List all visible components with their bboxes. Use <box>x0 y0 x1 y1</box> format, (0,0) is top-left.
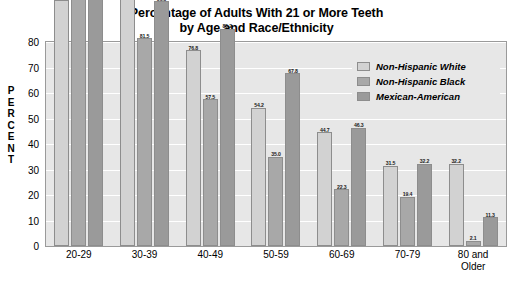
bar-value-label: 2.1 <box>470 235 477 241</box>
x-axis-tick-line: 50-59 <box>263 249 289 261</box>
bar-value-label: 96.0 <box>157 0 167 2</box>
x-axis-tick: 30-39 <box>132 249 158 261</box>
bar-value-label: 35.0 <box>271 151 281 157</box>
bar[interactable]: 67.8 <box>285 73 300 246</box>
bar-value-label: 32.2 <box>451 158 461 164</box>
bar-value-label: 85.2 <box>223 23 233 29</box>
legend-swatch <box>357 92 370 101</box>
bar[interactable]: 99.2 <box>120 0 135 246</box>
x-axis-tick-line: 70-79 <box>395 249 421 261</box>
bar[interactable]: 97.8 <box>71 0 86 246</box>
y-axis-tick-labels: 01020304050607080 <box>0 42 42 246</box>
legend-item[interactable]: Non-Hispanic White <box>357 59 496 74</box>
bar-group: 99.281.596.0 <box>112 42 178 246</box>
bar[interactable]: 96.5 <box>54 0 69 246</box>
x-axis-tick: 80 andOlder <box>458 249 489 273</box>
bar-group: 54.235.067.8 <box>243 42 309 246</box>
x-axis-tick: 20-29 <box>66 249 92 261</box>
x-axis-tick: 70-79 <box>395 249 421 261</box>
bar-value-label: 81.5 <box>140 33 150 39</box>
x-axis-tick-line: 80 and <box>458 249 489 261</box>
bar[interactable]: 19.4 <box>400 197 415 246</box>
bar-value-label: 31.5 <box>386 160 396 166</box>
bar-value-label: 46.3 <box>354 122 364 128</box>
bar-value-label: 11.3 <box>486 212 495 218</box>
x-axis-tick-line: 60-69 <box>329 249 355 261</box>
bar[interactable]: 22.3 <box>334 189 349 246</box>
legend-label: Non-Hispanic Black <box>376 76 465 87</box>
bar-value-label: 32.2 <box>420 158 430 164</box>
bar[interactable]: 35.0 <box>268 157 283 246</box>
bar[interactable]: 99.2 <box>88 0 103 246</box>
legend-label: Mexican-American <box>376 91 460 102</box>
bar[interactable]: 11.3 <box>483 217 498 246</box>
legend-label: Non-Hispanic White <box>376 61 466 72</box>
y-axis-tick: 60 <box>28 88 39 99</box>
bar[interactable]: 46.3 <box>351 128 366 246</box>
y-axis-tick: 40 <box>28 139 39 150</box>
bar[interactable]: 31.5 <box>383 166 398 246</box>
x-axis-tick-line: 20-29 <box>66 249 92 261</box>
x-axis-tick-line: Older <box>458 261 489 273</box>
y-axis-tick: 80 <box>28 37 39 48</box>
bar[interactable]: 54.2 <box>251 108 266 246</box>
y-axis-tick: 70 <box>28 62 39 73</box>
bar[interactable]: 2.1 <box>466 241 481 246</box>
bar[interactable]: 32.2 <box>449 164 464 246</box>
x-axis-tick: 40-49 <box>197 249 223 261</box>
x-axis-tick-labels: 20-2930-3940-4950-5960-6970-7980 andOlde… <box>46 249 506 283</box>
legend-swatch <box>357 77 370 86</box>
bar-value-label: 44.7 <box>320 127 330 133</box>
x-axis-tick-line: 30-39 <box>132 249 158 261</box>
bar-value-label: 19.4 <box>403 191 413 197</box>
chart-legend: Non-Hispanic WhiteNon-Hispanic BlackMexi… <box>352 55 500 108</box>
legend-item[interactable]: Non-Hispanic Black <box>357 74 496 89</box>
bar[interactable]: 96.0 <box>154 1 169 246</box>
bar-value-label: 54.2 <box>254 102 264 108</box>
bar-group: 76.857.585.2 <box>177 42 243 246</box>
x-axis-tick: 50-59 <box>263 249 289 261</box>
x-axis-tick-line: 40-49 <box>197 249 223 261</box>
bar[interactable]: 85.2 <box>220 29 235 246</box>
bar[interactable]: 44.7 <box>317 132 332 246</box>
y-axis-tick: 20 <box>28 190 39 201</box>
y-axis-tick: 10 <box>28 215 39 226</box>
bar-value-label: 76.8 <box>189 45 199 51</box>
y-axis-tick: 50 <box>28 113 39 124</box>
legend-item[interactable]: Mexican-American <box>357 89 496 104</box>
bar[interactable]: 57.5 <box>203 99 218 246</box>
y-axis-tick: 0 <box>33 241 39 252</box>
bar-value-label: 57.5 <box>206 94 216 100</box>
chart-container: Percentage of Adults With 21 or More Tee… <box>0 0 513 283</box>
bar[interactable]: 81.5 <box>137 38 152 246</box>
legend-swatch <box>357 62 370 71</box>
bar-value-label: 22.3 <box>337 184 347 190</box>
bar[interactable]: 32.2 <box>417 164 432 246</box>
x-axis-tick: 60-69 <box>329 249 355 261</box>
y-axis-tick: 30 <box>28 164 39 175</box>
bar[interactable]: 76.8 <box>186 50 201 246</box>
bar-value-label: 67.8 <box>288 68 298 74</box>
bar-group: 96.597.899.2 <box>46 42 112 246</box>
